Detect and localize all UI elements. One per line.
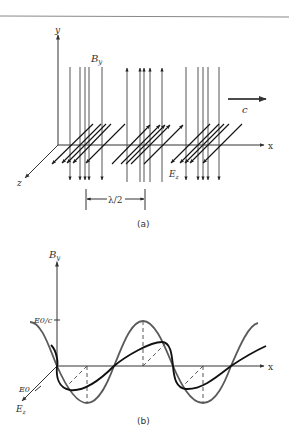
y-axis-label: y	[54, 25, 61, 35]
b-axis-label: By	[48, 249, 61, 262]
e-axis	[22, 366, 57, 401]
panel-a-caption: (a)	[137, 219, 150, 229]
b-field-curve	[30, 321, 258, 403]
em-wave-figure: y x z By Ez c λ/2 (a)	[0, 0, 289, 432]
b-field-label: By	[90, 53, 103, 66]
z-axis	[25, 145, 58, 178]
panel-b-caption: (b)	[137, 416, 150, 426]
z-axis-label: z	[16, 178, 22, 188]
top-rule	[0, 16, 289, 17]
wavelength-label: λ/2	[108, 195, 122, 205]
x-axis-label-b: x	[268, 362, 273, 372]
dashed-guides	[67, 321, 203, 403]
b-amplitude-label: E0/c	[33, 316, 53, 325]
panel-a: y x z By Ez c λ/2 (a)	[16, 25, 273, 229]
e-field-lines-group-3	[171, 124, 242, 163]
x-axis-label: x	[268, 141, 273, 151]
b-field-lines-group-1	[70, 67, 102, 180]
e-axis-label: Ez	[15, 404, 27, 415]
panel-b: By E0/c E0 Ez x (b)	[15, 249, 273, 426]
velocity-label: c	[242, 104, 248, 115]
b-field-lines-group-3	[186, 67, 219, 180]
b-field-lines-group-2	[127, 68, 162, 182]
e-amplitude-label: E0	[18, 385, 30, 394]
e-field-label: Ez	[168, 169, 180, 180]
